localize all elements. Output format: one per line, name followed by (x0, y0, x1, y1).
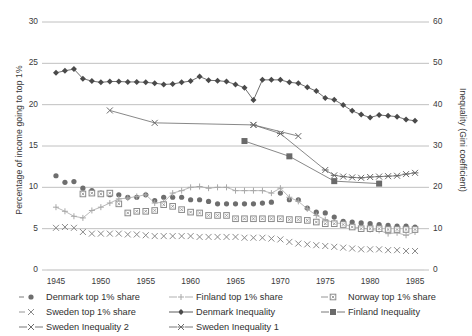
legend-item[interactable]: Sweden Inequality 2 (18, 320, 168, 334)
legend-label: Denmark top 1% share (44, 292, 140, 302)
x-tick: 1975 (305, 276, 345, 286)
legend-label: Denmark Inequality (194, 307, 275, 317)
x-tick: 1945 (36, 276, 76, 286)
legend-item[interactable]: Sweden Inequality 1 (168, 320, 320, 334)
chart-legend: Denmark top 1% shareFinland top 1% share… (18, 289, 470, 334)
x-tick: 1970 (260, 276, 300, 286)
y-tick-left: 25 (16, 57, 38, 67)
legend-marker-circle-icon (18, 290, 44, 304)
legend-label: Finland top 1% share (194, 292, 283, 302)
x-tick: 1955 (126, 276, 166, 286)
y-tick-left: 30 (16, 16, 38, 26)
legend-item[interactable]: Sweden top 1% share (18, 305, 168, 319)
legend-row: Denmark top 1% shareFinland top 1% share… (18, 289, 470, 304)
x-tick: 1960 (171, 276, 211, 286)
y-tick-left: 20 (16, 99, 38, 109)
y-tick-right: 50 (433, 57, 455, 67)
series-finland-inequality (241, 138, 382, 187)
legend-item[interactable]: Finland Inequality (320, 305, 470, 319)
legend-row: Sweden Inequality 2Sweden Inequality 1 (18, 319, 470, 334)
y-tick-right: 60 (433, 16, 455, 26)
series-norway-top-1-share (80, 190, 418, 232)
x-tick: 1985 (395, 276, 435, 286)
y-tick-left: 15 (16, 140, 38, 150)
y-tick-right: 0 (433, 264, 455, 274)
legend-marker-plus-icon (168, 290, 194, 304)
legend-label: Finland Inequality (346, 307, 420, 317)
legend-marker-x-line-icon (18, 320, 44, 334)
legend-marker-x-icon (18, 305, 44, 319)
y-tick-right: 40 (433, 99, 455, 109)
x-tick: 1965 (216, 276, 256, 286)
x-tick: 1980 (350, 276, 390, 286)
y-tick-left: 0 (16, 264, 38, 274)
legend-item[interactable]: Denmark Inequality (168, 305, 320, 319)
legend-marker-square-open-icon (320, 290, 346, 304)
legend-label: Sweden Inequality 1 (194, 322, 279, 332)
legend-marker-diamond-icon (168, 305, 194, 319)
series-layer (53, 66, 418, 254)
series-denmark-inequality (53, 66, 418, 124)
legend-label: Sweden Inequality 2 (44, 322, 129, 332)
legend-item[interactable]: Norway top 1% share (320, 290, 470, 304)
chart-figure: Percentage of income going to top 1% Ine… (0, 0, 472, 336)
legend-row: Sweden top 1% shareDenmark InequalityFin… (18, 304, 470, 319)
series-sweden-inequality-2 (107, 107, 302, 139)
x-tick: 1950 (81, 276, 121, 286)
legend-label: Norway top 1% share (346, 292, 436, 302)
legend-label: Sweden top 1% share (44, 307, 136, 317)
legend-marker-asterisk-icon (168, 320, 194, 334)
y-tick-right: 20 (433, 181, 455, 191)
legend-item[interactable]: Finland top 1% share (168, 290, 320, 304)
legend-marker-square-filled-icon (320, 305, 346, 319)
legend-item[interactable]: Denmark top 1% share (18, 290, 168, 304)
y-tick-right: 30 (433, 140, 455, 150)
y-tick-left: 10 (16, 181, 38, 191)
y-tick-left: 5 (16, 223, 38, 233)
y-tick-right: 10 (433, 223, 455, 233)
